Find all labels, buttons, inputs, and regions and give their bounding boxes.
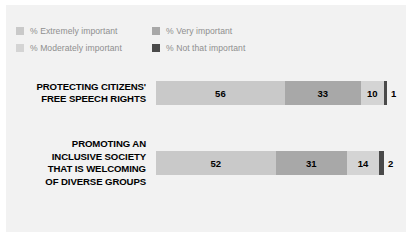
- legend-swatch-extremely-important: [16, 27, 24, 35]
- bar-category-label-line: PROTECTING CITIZENS': [36, 81, 146, 92]
- bar-segment-value-label: 14: [358, 158, 369, 169]
- chart-legend: % Extremely important % Very important %…: [16, 23, 316, 57]
- legend-swatch-moderately-important: [16, 44, 24, 52]
- bar-segment-value-label: 10: [367, 88, 378, 99]
- legend-item-very-important: % Very important: [152, 26, 302, 36]
- legend-row: % Extremely important % Very important: [16, 23, 316, 38]
- legend-swatch-very-important: [152, 27, 160, 35]
- bar-category-label: PROTECTING CITIZENS'FREE SPEECH RIGHTS: [6, 81, 156, 106]
- legend-swatch-not-that-important: [152, 44, 160, 52]
- bar-segment-value-label: 56: [215, 88, 226, 99]
- bar-category-label-line: PROMOTING AN: [72, 138, 146, 149]
- bar-category-label-line: OF DIVERSE GROUPS: [45, 176, 146, 187]
- bar-segment-value-label: 2: [384, 151, 398, 175]
- legend-label: % Very important: [166, 26, 232, 36]
- bar-category-label-line: FREE SPEECH RIGHTS: [41, 93, 146, 104]
- bar-segment: 31: [276, 151, 347, 175]
- bar-group: PROMOTING ANINCLUSIVE SOCIETYTHAT IS WEL…: [6, 127, 406, 199]
- legend-item-not-that-important: % Not that important: [152, 43, 302, 53]
- bar-segment-value-label: 31: [306, 158, 317, 169]
- bar-segment: 14: [347, 151, 379, 175]
- stacked-bar-track: 5231142: [156, 151, 398, 175]
- bar-segment-value-label: 1: [387, 81, 401, 105]
- bar-segment: 33: [285, 81, 361, 105]
- chart-panel: % Extremely important % Very important %…: [6, 5, 406, 232]
- legend-item-moderately-important: % Moderately important: [16, 43, 152, 53]
- bar-segment: 52: [156, 151, 276, 175]
- bar-group: PROTECTING CITIZENS'FREE SPEECH RIGHTS 5…: [6, 73, 406, 113]
- legend-item-extremely-important: % Extremely important: [16, 26, 152, 36]
- legend-label: % Moderately important: [30, 43, 122, 53]
- bar-segment-value-label: 33: [317, 88, 328, 99]
- legend-label: % Extremely important: [30, 26, 118, 36]
- bar-segment-value-label: 52: [211, 158, 222, 169]
- bar-category-label: PROMOTING ANINCLUSIVE SOCIETYTHAT IS WEL…: [6, 138, 156, 188]
- legend-label: % Not that important: [166, 43, 245, 53]
- stacked-bar-track: 5633101: [156, 81, 401, 105]
- legend-row: % Moderately important % Not that import…: [16, 40, 316, 55]
- bar-category-label-line: THAT IS WELCOMING: [48, 163, 146, 174]
- bar-category-label-line: INCLUSIVE SOCIETY: [52, 151, 146, 162]
- bar-segment: 10: [361, 81, 384, 105]
- bar-segment: 56: [156, 81, 285, 105]
